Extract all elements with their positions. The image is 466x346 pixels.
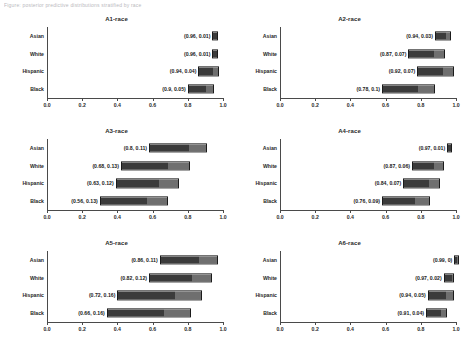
bar-segment-primary <box>429 292 447 299</box>
bar-segment-secondary <box>159 180 178 187</box>
x-tick-label: 0.2 <box>79 326 86 332</box>
bar-value-label: (0.87, 0.06) <box>383 163 410 169</box>
bar-segment-primary <box>189 86 207 93</box>
category-label: Asian <box>263 145 277 151</box>
x-tick <box>315 98 316 101</box>
bar-value-label: (0.78, 0.1) <box>356 86 380 92</box>
category-label: Hispanic <box>22 68 44 74</box>
bar-value-label: (0.94, 0.04) <box>170 68 197 74</box>
x-tick <box>386 322 387 325</box>
bar <box>428 291 454 300</box>
bar-segment-primary <box>436 32 447 39</box>
chart-panel-a5-race: A5-race0.00.20.40.60.81.0Asian(0.86, 0.1… <box>0 234 233 346</box>
bar-segment-primary <box>199 68 213 75</box>
bar <box>444 273 455 282</box>
x-tick-label: 0.4 <box>114 326 121 332</box>
y-axis-line <box>280 139 281 210</box>
bar-value-label: (0.96, 0.01) <box>184 33 211 39</box>
x-tick <box>386 210 387 213</box>
x-tick <box>47 322 48 325</box>
bar-segment-primary <box>118 292 174 299</box>
bar <box>212 49 217 58</box>
bar-segment-primary <box>122 162 168 169</box>
x-tick-label: 1.0 <box>452 214 459 220</box>
bar-segment-primary <box>445 274 452 281</box>
y-axis-line <box>280 251 281 322</box>
bar <box>121 161 190 170</box>
x-tick-label: 0.8 <box>417 102 424 108</box>
x-tick <box>188 322 189 325</box>
bar-segment-primary <box>418 68 443 75</box>
bar-segment-primary <box>108 310 164 317</box>
y-axis-line <box>47 251 48 322</box>
x-tick <box>280 322 281 325</box>
bar <box>117 291 201 300</box>
category-label: Hispanic <box>255 68 277 74</box>
x-tick <box>82 322 83 325</box>
bar-value-label: (0.91, 0.04) <box>398 310 425 316</box>
bar <box>107 309 191 318</box>
bar-value-label: (0.92, 0.07) <box>389 68 416 74</box>
x-tick-label: 1.0 <box>219 326 226 332</box>
x-axis-line <box>280 210 456 211</box>
x-tick-label: 0.0 <box>43 102 50 108</box>
x-tick <box>223 322 224 325</box>
bar-value-label: (0.94, 0.03) <box>406 33 433 39</box>
bar-segment-primary <box>383 86 418 93</box>
category-label: Asian <box>263 33 277 39</box>
bar-value-label: (0.72, 0.16) <box>89 292 116 298</box>
chart-panel-a2-race: A2-race0.00.20.40.60.81.0Asian(0.94, 0.0… <box>233 10 466 122</box>
x-tick-label: 1.0 <box>219 102 226 108</box>
bar <box>403 179 440 188</box>
bar-segment-secondary <box>452 274 454 281</box>
bar <box>188 85 214 94</box>
bar-value-label: (0.99, 0) <box>433 257 452 263</box>
bar-segment-secondary <box>446 32 449 39</box>
x-tick <box>223 98 224 101</box>
category-label: Hispanic <box>255 180 277 186</box>
bar <box>382 85 435 94</box>
bar-segment-secondary <box>189 144 206 151</box>
bar-segment-primary <box>404 180 429 187</box>
plot-area: 0.00.20.40.60.81.0Asian(0.96, 0.01)White… <box>0 10 233 122</box>
bar-segment-secondary <box>175 292 201 299</box>
bar-segment-secondary <box>168 162 189 169</box>
bar-segment-secondary <box>164 310 190 317</box>
x-tick <box>315 322 316 325</box>
x-tick-label: 0.6 <box>149 214 156 220</box>
bar <box>198 67 219 76</box>
x-tick-label: 0.4 <box>347 214 354 220</box>
figure-top-note: Figure: posterior predictive distributio… <box>4 0 462 10</box>
bar-segment-primary <box>383 198 415 205</box>
category-label: Black <box>263 198 277 204</box>
category-label: Asian <box>30 257 44 263</box>
x-tick-label: 0.0 <box>43 326 50 332</box>
bar-segment-secondary <box>192 274 211 281</box>
plot-area: 0.00.20.40.60.81.0Asian(0.99, 0)White(0.… <box>233 234 466 346</box>
bar <box>116 179 179 188</box>
x-tick <box>280 210 281 213</box>
x-tick-label: 0.0 <box>276 102 283 108</box>
x-tick-label: 0.8 <box>417 326 424 332</box>
bar-segment-primary <box>213 50 216 57</box>
bar <box>149 143 207 152</box>
bar-segment-secondary <box>415 198 429 205</box>
x-tick <box>456 98 457 101</box>
x-tick-label: 0.0 <box>43 214 50 220</box>
category-label: Black <box>30 198 44 204</box>
bar-segment-secondary <box>434 50 444 57</box>
category-label: White <box>263 51 277 57</box>
x-tick <box>223 210 224 213</box>
bar-value-label: (0.66, 0.16) <box>78 310 105 316</box>
x-tick-label: 0.4 <box>114 102 121 108</box>
bar-segment-secondary <box>443 68 453 75</box>
bar-value-label: (0.97, 0.01) <box>419 145 446 151</box>
plot-area: 0.00.20.40.60.81.0Asian(0.86, 0.11)White… <box>0 234 233 346</box>
bar-segment-secondary <box>147 198 168 205</box>
bar-segment-primary <box>101 198 147 205</box>
category-label: Hispanic <box>255 292 277 298</box>
x-tick <box>386 98 387 101</box>
category-label: Hispanic <box>22 180 44 186</box>
x-tick-label: 0.8 <box>184 102 191 108</box>
bar-value-label: (0.96, 0.01) <box>184 51 211 57</box>
